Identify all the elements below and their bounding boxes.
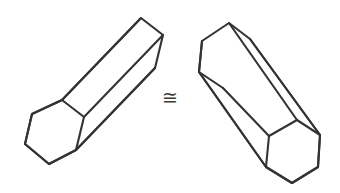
hexagonal-prism-right	[199, 23, 320, 183]
congruence-symbol: ≅	[152, 82, 188, 112]
figure-canvas: ≅	[0, 0, 340, 193]
hexagonal-prism-left	[25, 18, 163, 164]
